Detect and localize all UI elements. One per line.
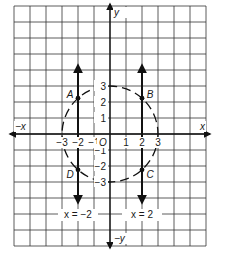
point-c [140,167,145,172]
y-axis-label: y [113,7,120,18]
axes [10,4,210,248]
line-equation-label: x = 2 [131,209,153,220]
point-a [76,96,81,101]
neg-x-axis-label: −x [15,121,27,132]
x-tick-label: −2 [72,137,84,148]
coordinate-plane: x = −2x = 2 −3−2−1123321−1−2−3O ABCD x−x… [0,0,226,254]
point-b [140,96,145,101]
x-tick-label: 3 [155,137,161,148]
point-label: B [147,89,154,100]
x-axis-label: x [199,121,206,132]
y-tick-label: 2 [100,97,106,108]
y-tick-label: 1 [100,113,106,124]
y-tick-label: −3 [95,177,107,188]
x-tick-label: 2 [139,137,145,148]
point-label: C [146,169,154,180]
point-label: A [66,89,74,100]
y-tick-label: 3 [100,81,106,92]
point-d [76,167,81,172]
y-tick-label: −2 [95,161,107,172]
neg-y-axis-label: −y [114,233,126,244]
x-tick-label: −3 [56,137,68,148]
x-tick-label: 1 [123,137,129,148]
point-label: D [66,169,73,180]
origin-label: O [99,137,107,148]
line-equation-label: x = −2 [64,209,92,220]
